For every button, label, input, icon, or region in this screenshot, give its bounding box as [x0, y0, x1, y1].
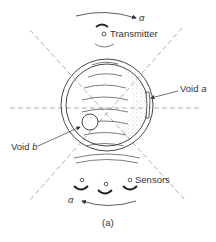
tomography-diagram: Transmitter α Void a Void b Sensors α (a…	[0, 0, 216, 242]
void-b-label: Void b	[11, 141, 37, 152]
sensors	[74, 178, 137, 193]
void-b-circle	[82, 114, 98, 130]
alpha-top-label: α	[139, 12, 145, 23]
alpha-bottom-label: α	[68, 194, 74, 205]
top-rotation-arrow	[76, 12, 136, 18]
void-a-pointer	[151, 91, 178, 98]
bottom-rotation-arrow	[82, 201, 136, 206]
void-a-label: Void a	[180, 83, 206, 94]
void-a-shape	[146, 92, 150, 118]
sensors-label: Sensors	[135, 174, 170, 185]
stippled-region	[110, 60, 150, 148]
dashed-guide-lines	[10, 28, 200, 200]
transmitter-label: Transmitter	[110, 28, 158, 39]
figure-caption: (a)	[102, 217, 114, 228]
